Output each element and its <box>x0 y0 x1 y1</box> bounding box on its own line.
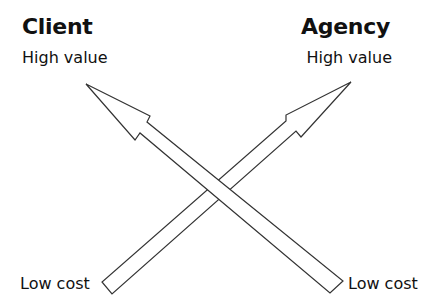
crossed-arrows-diagram <box>0 0 439 304</box>
client-low-cost-label: Low cost <box>20 274 90 293</box>
agency-low-cost-label: Low cost <box>348 274 418 293</box>
